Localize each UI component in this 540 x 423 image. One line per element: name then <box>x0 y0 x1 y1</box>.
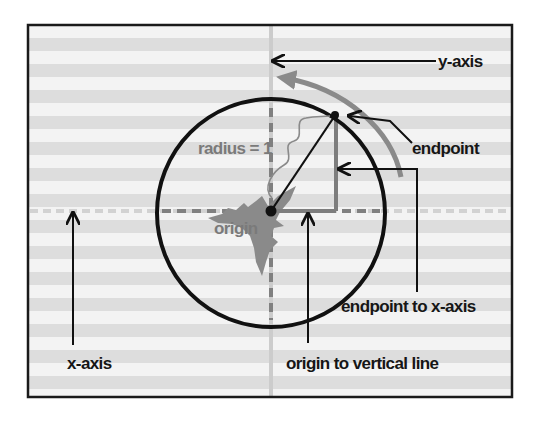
diagram-canvas: y-axis endpoint radius = 1 origin endpoi… <box>0 0 540 423</box>
unit-circle-diagram: y-axis endpoint radius = 1 origin endpoi… <box>0 0 540 423</box>
origin-point <box>266 206 277 217</box>
y-axis-label: y-axis <box>438 52 483 71</box>
radius-label: radius = 1 <box>198 139 272 158</box>
endpoint-to-x-axis-label: endpoint to x-axis <box>341 297 476 316</box>
origin-label: origin <box>214 219 258 238</box>
endpoint-point <box>331 111 339 119</box>
x-axis-label: x-axis <box>67 354 112 373</box>
endpoint-label: endpoint <box>412 139 480 158</box>
origin-to-vertical-line-label: origin to vertical line <box>286 354 439 373</box>
